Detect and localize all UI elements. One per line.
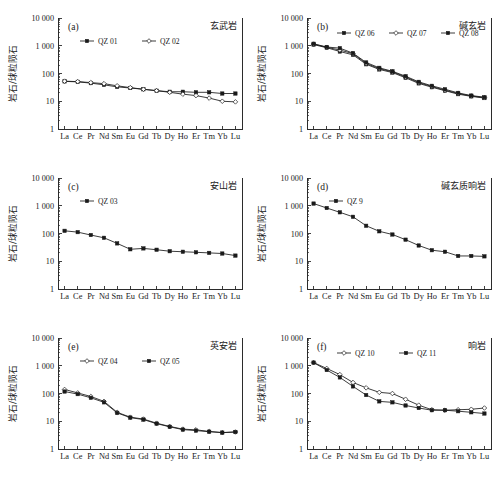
- legend-label: QZ 07: [407, 29, 427, 38]
- legend-label: QZ 11: [417, 349, 437, 358]
- y-axis-title: 岩石/球粒陨石: [256, 205, 267, 262]
- data-point: [364, 61, 367, 64]
- data-point: [168, 250, 171, 253]
- y-tick-label: 1 000: [285, 202, 303, 211]
- y-tick-label: 100: [42, 230, 54, 239]
- x-tick-label: Ce: [322, 452, 332, 461]
- legend-marker: [404, 351, 407, 354]
- plot-frame: [307, 178, 491, 289]
- y-tick-label: 1 000: [285, 362, 303, 371]
- y-axis-title: 岩石/球粒陨石: [256, 365, 267, 422]
- x-tick-label: Ce: [73, 292, 83, 301]
- chart-panel-b: 10 0001 000100101LaCePrNdSmEuGdTbDyHoErT…: [249, 0, 497, 159]
- x-tick-label: Tb: [401, 132, 410, 141]
- data-point: [181, 250, 184, 253]
- x-tick-label: Pr: [87, 132, 95, 141]
- y-tick-label: 10: [295, 97, 303, 106]
- x-tick-label: Tm: [452, 132, 464, 141]
- x-tick-label: La: [60, 132, 69, 141]
- x-tick-label: Pr: [336, 132, 344, 141]
- data-point: [89, 233, 92, 236]
- chart-panel-f: 10 0001 000100101LaCePrNdSmEuGdTbDyHoErT…: [249, 320, 497, 479]
- panel-label: (c): [68, 182, 79, 193]
- data-point: [470, 411, 473, 414]
- x-tick-label: Sm: [361, 132, 373, 141]
- rock-type-label: 安山岩: [210, 180, 237, 191]
- data-point: [470, 254, 473, 257]
- x-tick-label: Er: [441, 452, 449, 461]
- x-tick-label: Pr: [87, 292, 95, 301]
- data-point: [404, 404, 407, 407]
- y-tick-label: 10: [46, 417, 54, 426]
- data-point: [194, 429, 197, 432]
- data-point: [220, 99, 225, 104]
- panel-plot-area: 10 0001 000100101LaCePrNdSmEuGdTbDyHoErT…: [0, 0, 248, 159]
- x-tick-label: Tb: [401, 452, 410, 461]
- x-tick-label: Ce: [322, 292, 332, 301]
- data-point: [404, 74, 407, 77]
- x-tick-label: Yb: [217, 452, 227, 461]
- y-tick-label: 10 000: [280, 14, 303, 23]
- y-axis-title: 岩石/球粒陨石: [256, 45, 267, 102]
- data-point: [325, 368, 328, 371]
- panel-plot-area: 10 0001 000100101LaCePrNdSmEuGdTbDyHoErT…: [0, 320, 248, 479]
- data-point: [482, 406, 487, 411]
- x-tick-label: Sm: [112, 132, 124, 141]
- data-point: [155, 248, 158, 251]
- y-tick-label: 1: [299, 445, 303, 454]
- x-tick-label: La: [60, 452, 69, 461]
- data-point: [115, 411, 118, 414]
- x-tick-label: Lu: [231, 132, 241, 141]
- legend-label: QZ 05: [160, 357, 180, 366]
- panel-plot-area: 10 0001 000100101LaCePrNdSmEuGdTbDyHoErT…: [249, 320, 497, 479]
- data-point: [391, 401, 394, 404]
- data-point: [364, 393, 367, 396]
- y-tick-label: 1: [50, 125, 54, 134]
- x-tick-label: Tb: [152, 132, 161, 141]
- x-tick-label: Gd: [138, 132, 149, 141]
- x-tick-label: Eu: [375, 292, 385, 301]
- data-point: [443, 88, 446, 91]
- data-point: [312, 361, 315, 364]
- data-point: [351, 51, 354, 54]
- data-point: [390, 391, 395, 396]
- data-point: [456, 410, 459, 413]
- x-tick-label: Dy: [414, 132, 425, 141]
- data-point: [233, 100, 238, 105]
- panel-label: (e): [68, 342, 79, 353]
- data-point: [221, 252, 224, 255]
- series-line-qz-10: [314, 363, 485, 411]
- data-point: [483, 95, 486, 98]
- data-point: [76, 230, 79, 233]
- legend-marker: [147, 359, 150, 362]
- x-tick-label: Er: [192, 132, 200, 141]
- x-tick-label: Nd: [348, 292, 359, 301]
- x-tick-label: Ce: [322, 132, 332, 141]
- panel-plot-area: 10 0001 000100101LaCePrNdSmEuGdTbDyHoErT…: [249, 0, 497, 159]
- x-tick-label: La: [60, 292, 69, 301]
- x-tick-label: Pr: [336, 292, 344, 301]
- data-point: [312, 202, 315, 205]
- x-tick-label: Er: [192, 452, 200, 461]
- y-axis-title: 岩石/球粒陨石: [7, 45, 18, 102]
- x-tick-label: Nd: [99, 132, 110, 141]
- data-point: [378, 400, 381, 403]
- data-point: [338, 46, 341, 49]
- y-tick-label: 10: [295, 257, 303, 266]
- data-point: [207, 91, 210, 94]
- y-tick-label: 1: [299, 285, 303, 294]
- legend-marker: [394, 31, 399, 36]
- x-tick-label: Ho: [427, 292, 437, 301]
- x-tick-label: Er: [441, 132, 449, 141]
- legend-marker: [446, 31, 449, 34]
- panel-plot-area: 10 0001 000100101LaCePrNdSmEuGdTbDyHoErT…: [249, 160, 497, 319]
- chart-panel-d: 10 0001 000100101LaCePrNdSmEuGdTbDyHoErT…: [249, 160, 497, 319]
- data-point: [391, 70, 394, 73]
- data-point: [338, 211, 341, 214]
- data-point: [168, 425, 171, 428]
- x-tick-label: Ho: [178, 132, 188, 141]
- data-point: [325, 206, 328, 209]
- x-tick-label: Gd: [138, 292, 149, 301]
- y-tick-label: 100: [42, 390, 54, 399]
- data-point: [142, 247, 145, 250]
